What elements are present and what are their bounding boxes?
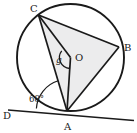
point-label-d: D (3, 110, 11, 121)
point-label-a: A (63, 121, 72, 132)
circle-geometry-figure: C B A O D g 68° (0, 0, 137, 133)
angle-label-g: g (56, 55, 62, 65)
angle-label-68-degrees: 68° (29, 94, 44, 104)
geometry-canvas: C B A O D g 68° (0, 0, 137, 133)
point-label-c: C (30, 3, 38, 14)
point-label-b: B (124, 42, 131, 53)
point-label-o: O (75, 52, 83, 63)
